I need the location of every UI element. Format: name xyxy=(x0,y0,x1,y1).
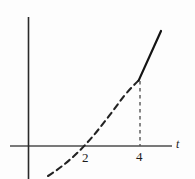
graph-canvas xyxy=(0,0,195,179)
x-tick-label-2: 2 xyxy=(82,151,89,164)
curve-dashed xyxy=(48,80,139,176)
graph-figure: 2 4 t xyxy=(0,0,195,179)
line-solid xyxy=(139,31,161,81)
x-axis-label: t xyxy=(176,138,179,150)
x-tick-label-4: 4 xyxy=(136,150,143,163)
